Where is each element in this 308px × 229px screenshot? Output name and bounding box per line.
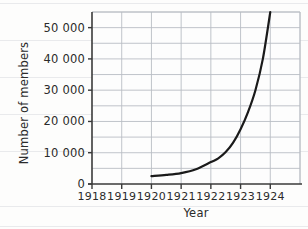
x-tick-label: 1921 [167,190,196,203]
x-axis-tick-labels: 1918191919201921192219231924 [77,190,284,203]
x-tick-label: 1919 [107,190,136,203]
y-tick-label: 10 000 [44,146,85,160]
y-tick-label: 30 000 [44,83,85,97]
x-tick-label: 1922 [196,190,225,203]
chart-page: 010 00020 00030 00040 00050 000 19181919… [0,0,308,229]
x-tick-label: 1918 [77,190,106,203]
x-tick-label: 1923 [226,190,255,203]
y-axis-tick-labels: 010 00020 00030 00040 00050 000 [44,21,85,191]
x-tick-label: 1924 [256,190,285,203]
y-tick-label: 0 [77,177,85,191]
x-tick-label: 1920 [137,190,166,203]
chart-figure: 010 00020 00030 00040 00050 000 19181919… [0,0,308,229]
y-tick-label: 50 000 [44,21,85,35]
y-tick-label: 20 000 [44,114,85,128]
chart-svg: 010 00020 00030 00040 00050 000 19181919… [0,0,308,229]
y-axis-title: Number of members [17,42,31,165]
y-tick-label: 40 000 [44,52,85,66]
x-axis-title: Year [182,206,208,220]
plot-background [92,12,300,184]
